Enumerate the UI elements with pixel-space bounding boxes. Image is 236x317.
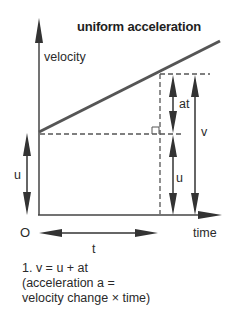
caption-definition-2: velocity change × time) bbox=[22, 291, 150, 306]
right-angle-marker bbox=[152, 127, 159, 134]
velocity-change-label: at bbox=[179, 98, 189, 111]
diagram-title: uniform acceleration bbox=[77, 20, 201, 33]
initial-velocity-right-label: u bbox=[176, 172, 183, 185]
caption: 1. v = u + at (acceleration a = velocity… bbox=[22, 261, 150, 306]
final-velocity-label: v bbox=[201, 126, 207, 139]
dashed-guides bbox=[40, 74, 210, 214]
t-arrow bbox=[39, 229, 158, 237]
caption-definition-1: (acceleration a = bbox=[22, 276, 150, 291]
caption-equation: 1. v = u + at bbox=[22, 261, 150, 276]
at-arrow bbox=[169, 75, 177, 133]
y-axis bbox=[35, 18, 43, 215]
v-arrow bbox=[191, 75, 199, 215]
u-left-arrow bbox=[23, 133, 31, 215]
x-axis-label: time bbox=[193, 227, 217, 240]
initial-velocity-left-label: u bbox=[14, 169, 21, 182]
y-axis-label: velocity bbox=[44, 51, 86, 64]
origin-label: O bbox=[20, 226, 30, 239]
time-interval-label: t bbox=[92, 243, 95, 256]
x-axis bbox=[38, 211, 222, 219]
